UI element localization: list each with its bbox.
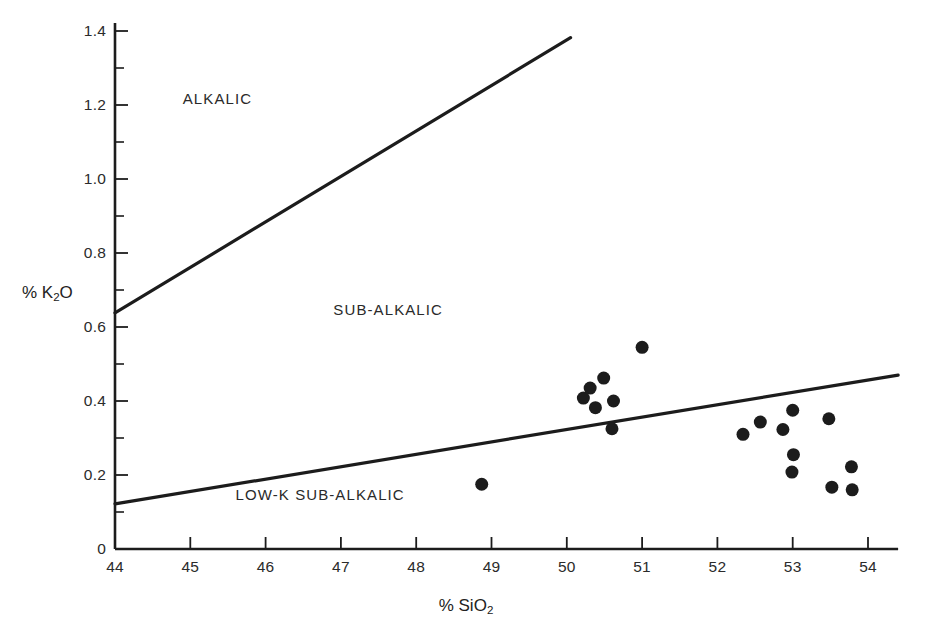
chart-figure: 4445464748495051525354 00.20.40.60.81.01… [0, 0, 932, 638]
x-tick-label: 44 [106, 558, 124, 576]
field-label-low-k-sub-alkalic: LOW-K SUB-ALKALIC [235, 486, 404, 503]
data-point [787, 448, 800, 461]
y-tick-label: 0.4 [84, 392, 106, 410]
alkalic-subalkalic-boundary [115, 38, 571, 313]
x-tick-label: 47 [332, 558, 350, 576]
y-tick-label: 0.8 [84, 244, 106, 262]
data-point [786, 404, 799, 417]
data-point [785, 466, 798, 479]
field-label-sub-alkalic: SUB-ALKALIC [333, 301, 443, 318]
y-tick-label: 0.2 [84, 466, 106, 484]
data-point [607, 395, 620, 408]
data-point [737, 428, 750, 441]
data-point [845, 460, 858, 473]
x-tick-label: 52 [709, 558, 727, 576]
x-tick-label: 46 [257, 558, 275, 576]
y-axis-title-tail: O [60, 283, 73, 302]
data-point [776, 423, 789, 436]
data-point [822, 412, 835, 425]
y-tick-label: 1.0 [84, 170, 106, 188]
y-axis-title: % K2O [22, 283, 73, 303]
x-axis-title-base: % SiO [439, 596, 487, 615]
x-tick-label: 48 [407, 558, 425, 576]
axis-ticks [115, 31, 868, 549]
y-tick-label: 0 [97, 540, 106, 558]
x-tick-label: 49 [483, 558, 501, 576]
data-point [754, 416, 767, 429]
x-axis-title-subscript: 2 [487, 604, 493, 616]
plot-canvas [0, 0, 932, 638]
data-point [846, 483, 859, 496]
y-tick-label: 0.6 [84, 318, 106, 336]
data-point [605, 422, 618, 435]
x-axis-title: % SiO2 [439, 596, 494, 616]
x-tick-label: 53 [784, 558, 802, 576]
data-point [636, 341, 649, 354]
x-tick-label: 45 [181, 558, 199, 576]
y-tick-label: 1.4 [84, 22, 106, 40]
data-point [589, 401, 602, 414]
data-point [597, 372, 610, 385]
data-point [584, 382, 597, 395]
x-tick-label: 50 [558, 558, 576, 576]
data-points [475, 341, 858, 496]
lowk-subalkalic-boundary [115, 375, 898, 504]
x-tick-label: 51 [633, 558, 651, 576]
field-label-alkalic: ALKALIC [183, 90, 252, 107]
y-tick-label: 1.2 [84, 96, 106, 114]
data-point [475, 478, 488, 491]
x-tick-label: 54 [859, 558, 877, 576]
data-point [825, 481, 838, 494]
y-axis-title-base: % K [22, 283, 53, 302]
